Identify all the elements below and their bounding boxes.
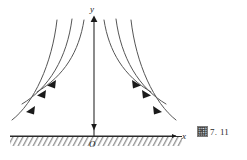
field-line-left-3 bbox=[12, 20, 57, 120]
boundary-wall bbox=[10, 137, 182, 147]
y-axis-label: y bbox=[89, 4, 94, 14]
figure-container: x y O bbox=[0, 0, 247, 160]
field-line-right-2 bbox=[116, 19, 166, 104]
right-field-lines bbox=[104, 19, 176, 120]
field-line-right-3 bbox=[131, 20, 176, 120]
figure-character-icon: 图 bbox=[197, 126, 208, 137]
figure-number: 7. 11 bbox=[210, 127, 229, 137]
origin-label: O bbox=[89, 139, 96, 149]
x-axis-label: x bbox=[181, 131, 186, 141]
y-axis-arrowhead bbox=[91, 16, 98, 23]
field-line-left-2 bbox=[22, 19, 72, 104]
field-line-right-1 bbox=[104, 20, 151, 92]
left-field-lines bbox=[12, 19, 84, 120]
y-axis: y O bbox=[89, 4, 97, 149]
figure-caption: 图 7. 11 bbox=[197, 126, 229, 137]
field-line-left-1 bbox=[37, 20, 84, 92]
y-axis-flow-arrow bbox=[91, 124, 97, 131]
